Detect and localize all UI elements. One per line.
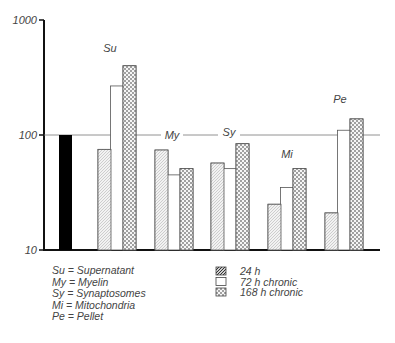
- bars: [59, 66, 363, 250]
- bar-mi-open: [281, 187, 294, 250]
- control-bar: [59, 135, 72, 250]
- bar-su-open: [111, 86, 124, 250]
- legend-category-item: My = Myelin: [52, 276, 108, 288]
- bar-my-open: [168, 175, 181, 250]
- legend-swatch: [216, 288, 226, 296]
- group-label-my: My: [165, 129, 181, 141]
- group-labels: SuMySyMiPe: [103, 42, 346, 160]
- legend-category-item: Pe = Pellet: [52, 310, 104, 322]
- group-label-sy: Sy: [223, 126, 237, 138]
- legend: Su = SupernatantMy = MyelinSy = Synaptos…: [52, 264, 304, 322]
- legend-series-item: 168 h chronic: [240, 286, 304, 298]
- group-label-mi: Mi: [281, 148, 293, 160]
- group-label-pe: Pe: [333, 93, 346, 105]
- legend-category-item: Sy = Synaptosomes: [52, 287, 146, 299]
- legend-category-item: Mi = Mitochondria: [52, 299, 135, 311]
- bar-pe-open: [338, 130, 351, 250]
- legend-category-item: Su = Supernatant: [52, 264, 135, 276]
- y-tick-label: 10: [25, 244, 38, 256]
- bar-chart: 101001000 SuMySyMiPe Su = SupernatantMy …: [0, 0, 395, 343]
- group-label-su: Su: [103, 42, 116, 54]
- y-tick-label: 100: [19, 129, 38, 141]
- y-tick-label: 1000: [13, 14, 38, 26]
- legend-swatch: [216, 278, 226, 286]
- legend-swatch: [216, 267, 226, 275]
- bar-sy-open: [224, 169, 237, 250]
